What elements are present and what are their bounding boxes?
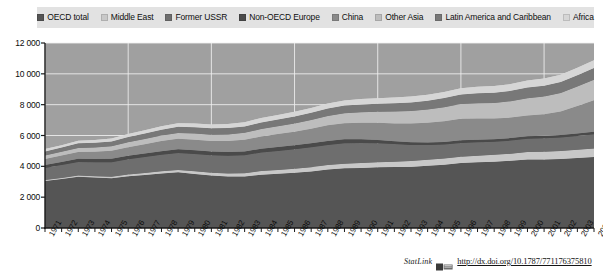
legend-item[interactable]: China [332, 13, 363, 22]
legend-item[interactable]: Middle East [101, 13, 154, 22]
legend-swatch-icon [435, 14, 442, 21]
legend-swatch-icon [165, 14, 172, 21]
y-axis-tick-labels: 12 00010 0008 0006 0004 0002 0000 [0, 31, 40, 231]
y-axis-tick-label: 2 000 [0, 193, 40, 202]
statlink-url[interactable]: http://dx.doi.org/10.1787/771176375810 [457, 256, 591, 266]
legend-item[interactable]: OECD total [37, 13, 89, 22]
chart-page: OECD totalMiddle EastFormer USSRNon-OECD… [0, 0, 603, 273]
legend-swatch-icon [563, 14, 570, 21]
legend-item-label: OECD total [47, 13, 89, 22]
statlink-footer: StatLink http://dx.doi.org/10.1787/77117… [404, 256, 592, 266]
legend-swatch-icon [332, 14, 339, 21]
legend-swatch-icon [375, 14, 382, 21]
legend-item[interactable]: Other Asia [375, 13, 423, 22]
spreadsheet-icon [436, 257, 453, 265]
y-axis-tick-label: 10 000 [0, 70, 40, 79]
chart-area: 1971197219731974197519761977197819791980… [0, 31, 603, 273]
legend-swatch-icon [239, 14, 246, 21]
y-axis-tick-label: 4 000 [0, 162, 40, 171]
legend-item-label: Middle East [111, 13, 154, 22]
legend-item[interactable]: Non-OECD Europe [239, 13, 320, 22]
legend-swatch-icon [37, 14, 44, 21]
y-axis-tick-label: 6 000 [0, 132, 40, 141]
statlink-label: StatLink [404, 257, 432, 266]
legend-item-label: Former USSR [175, 13, 227, 22]
y-axis-tick-label: 0 [0, 224, 40, 233]
legend-item-label: China [342, 13, 363, 22]
legend-item[interactable]: Africa [563, 13, 594, 22]
chart-legend: OECD totalMiddle EastFormer USSRNon-OECD… [37, 7, 594, 28]
legend-item[interactable]: Latin America and Caribbean [435, 13, 551, 22]
stacked-area-plot [0, 31, 603, 273]
legend-item-label: Latin America and Caribbean [445, 13, 551, 22]
legend-item-label: Other Asia [385, 13, 423, 22]
legend-item-label: Africa [573, 13, 594, 22]
legend-item-label: Non-OECD Europe [249, 13, 320, 22]
legend-item[interactable]: Former USSR [165, 13, 227, 22]
legend-swatch-icon [101, 14, 108, 21]
y-axis-tick-label: 8 000 [0, 101, 40, 110]
y-axis-tick-label: 12 000 [0, 39, 40, 48]
